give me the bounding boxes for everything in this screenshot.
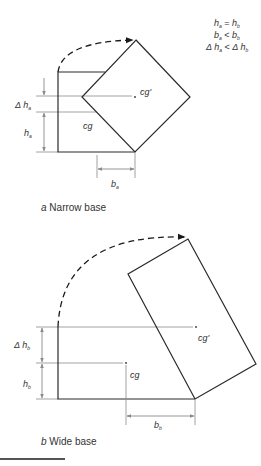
- tilted-block-b: [128, 239, 256, 399]
- cg-prime-dot-b: [195, 326, 197, 328]
- cg-label-a: cg: [83, 121, 93, 131]
- cg-label-b: cg: [130, 370, 140, 380]
- delta-h-label-a: Δ ha: [14, 100, 31, 111]
- rotation-arc-b: [58, 237, 184, 327]
- cg-prime-label-b: cg': [198, 333, 210, 343]
- conditions-block: ha = hb ba < bb Δ ha < Δ hb: [205, 18, 249, 53]
- h-label-a: ha: [24, 128, 32, 139]
- stability-diagram: ha = hb ba < bb Δ ha < Δ hb cg' cg Δ ha …: [0, 0, 261, 466]
- condition-line-1: ha = hb: [214, 18, 240, 29]
- cg-dot-b: [125, 362, 127, 364]
- condition-line-3: Δ ha < Δ hb: [205, 42, 249, 53]
- condition-line-2: ba < bb: [214, 30, 240, 41]
- caption-a: a Narrow base: [41, 202, 106, 213]
- b-label-b: bb: [154, 420, 162, 431]
- cg-prime-label-a: cg': [140, 87, 152, 97]
- h-label-b: hb: [23, 379, 31, 390]
- delta-h-label-b: Δ hb: [13, 340, 30, 351]
- cg-prime-dot-a: [134, 96, 136, 98]
- panel-a-narrow-base: cg' cg Δ ha ha ba a Narrow base: [14, 40, 190, 213]
- panel-b-wide-base: cg' cg Δ hb hb bb b Wide base: [13, 237, 256, 447]
- caption-b: b Wide base: [41, 436, 97, 447]
- b-label-a: ba: [111, 179, 119, 190]
